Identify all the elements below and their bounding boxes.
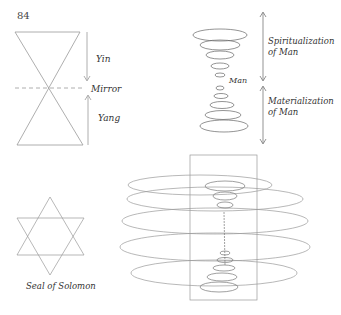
spiritualization-label-2: of Man: [268, 47, 298, 57]
mirror-label: Mirror: [91, 84, 121, 94]
seal-of-solomon-star: [17, 197, 84, 275]
yang-label: Yang: [98, 113, 120, 123]
yin-label: Yin: [96, 54, 110, 64]
materialization-label-2: of Man: [268, 107, 298, 117]
spiritualization-label: Spiritualization: [268, 36, 334, 46]
seal-of-solomon-caption: Seal of Solomon: [26, 281, 96, 291]
hourglass-figure: [15, 32, 91, 145]
large-spiral-figure: [120, 155, 310, 300]
materialization-label: Materialization: [268, 96, 334, 106]
man-label: Man: [229, 76, 247, 86]
